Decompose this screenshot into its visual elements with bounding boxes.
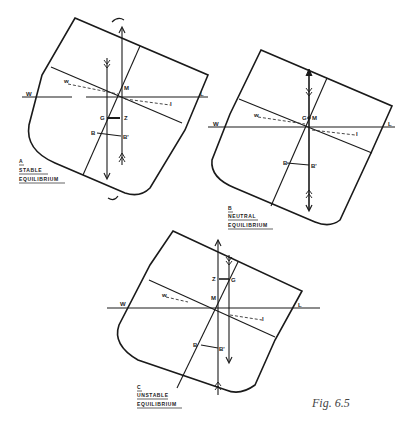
- diagram-letter-b: B: [228, 205, 232, 211]
- hull-outline-b: [212, 50, 392, 225]
- buoyancy-shift-b: [287, 163, 309, 165]
- point-w-small-c: w: [161, 292, 167, 298]
- point-w-c: W: [120, 301, 126, 307]
- ship-stability-figure: M G Z B B' W L w l A STABLE EQUILIBRIUM …: [0, 0, 416, 431]
- diagram-title-a-line1: STABLE: [19, 167, 42, 173]
- point-l-b: L: [388, 121, 392, 127]
- rotation-arrow-top-icon: [112, 18, 124, 22]
- diagram-stable-equilibrium: M G Z B B' W L w l A STABLE EQUILIBRIUM: [19, 18, 208, 200]
- wedge-arrow-out-c: [166, 297, 188, 302]
- point-g-a: G: [100, 115, 105, 121]
- wedge-arrow-out-b: [258, 117, 305, 124]
- ship-waterline-b: [239, 99, 372, 153]
- diagram-letter-c: C: [137, 384, 141, 390]
- point-b-a: B: [91, 130, 96, 136]
- figure-caption: Fig. 6.5: [312, 396, 350, 411]
- point-b1-c: B': [219, 346, 225, 352]
- diagram-neutral-equilibrium: G M B B' W L w l B NEUTRAL EQUILIBRIUM: [208, 50, 395, 229]
- point-w-b: W: [213, 121, 219, 127]
- point-l-c: L: [298, 302, 302, 308]
- centreline-b: [271, 78, 327, 206]
- point-z-c: Z: [212, 276, 216, 282]
- point-w-small-b: w: [253, 112, 259, 118]
- point-b1-b: B': [311, 163, 317, 169]
- wedge-arrow-in-b: [312, 130, 355, 135]
- diagram-title-a-line2: EQUILIBRIUM: [19, 176, 59, 182]
- point-b1-a: B': [123, 134, 129, 140]
- point-l-small-b: l: [356, 131, 358, 137]
- point-l-small-a: l: [170, 101, 172, 107]
- diagram-unstable-equilibrium: Z G M B B' W L w l C UNSTABLE EQUILIBRIU…: [107, 231, 320, 408]
- point-g-c: G: [231, 277, 236, 283]
- diagram-title-c-line2: EQUILIBRIUM: [137, 401, 177, 407]
- point-g-b: G: [302, 115, 307, 121]
- point-b-b: B: [283, 160, 288, 166]
- point-m-a: M: [124, 85, 129, 91]
- diagram-title-b-line1: NEUTRAL: [228, 213, 256, 219]
- point-z-a: Z: [124, 115, 128, 121]
- point-g-m-marker-b: [307, 116, 311, 120]
- point-m-c: M: [211, 295, 216, 301]
- point-l-small-c: l: [262, 316, 264, 322]
- rotation-arrow-bottom-icon: [108, 196, 118, 200]
- centreline-a: [83, 46, 140, 175]
- ship-waterline-a: [51, 67, 182, 123]
- buoyancy-shift-c: [201, 345, 218, 348]
- diagram-letter-a: A: [19, 158, 23, 164]
- diagram-title-b-line2: EQUILIBRIUM: [228, 222, 268, 228]
- hull-outline-c: [118, 231, 302, 392]
- hull-outline-a: [29, 18, 208, 195]
- diagram-title-c-line1: UNSTABLE: [137, 392, 169, 398]
- point-w-a: W: [26, 91, 32, 97]
- point-w-small-a: w: [63, 78, 69, 84]
- point-b-c: B: [193, 342, 198, 348]
- point-m-b: M: [312, 115, 317, 121]
- point-l-a: L: [200, 91, 204, 97]
